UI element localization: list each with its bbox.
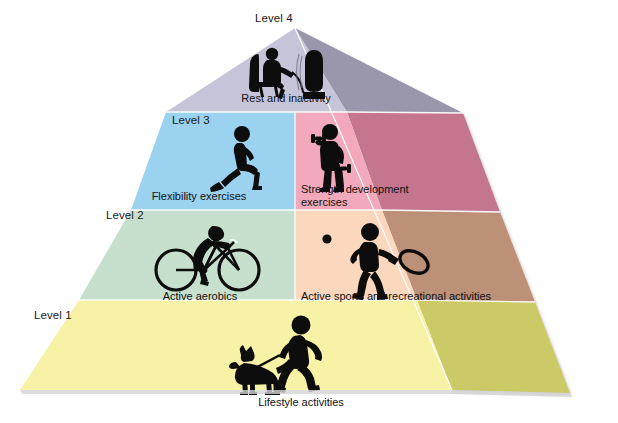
level-1-label: Level 1 (34, 309, 72, 321)
level-2-label: Level 2 (106, 209, 144, 221)
pyramid-svg (0, 0, 618, 423)
segment-label-flexibility-exercises: Flexibility exercises (152, 190, 247, 203)
segment-label-active-sports-and-recreational-activities: Active sports and recreational activitie… (301, 290, 491, 303)
segment-label-active-aerobics: Active aerobics (163, 290, 238, 303)
pyramid-figure: Level 4 Level 3 Level 2 Level 1 Rest and… (0, 0, 618, 423)
level-4-label: Level 4 (255, 12, 293, 24)
level-3-label: Level 3 (172, 114, 210, 126)
segment-label-lifestyle-activities: Lifestyle activities (258, 396, 344, 409)
segment-label-strength-development-exercises: Strength development exercises (301, 183, 409, 208)
segment-label-rest-and-inactivity: Rest and inactivity (241, 92, 330, 105)
